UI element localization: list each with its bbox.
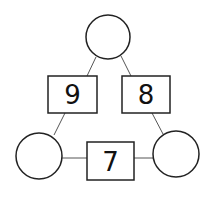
circle-top[interactable] (86, 15, 130, 59)
number-triangle-diagram: 9 8 7 (0, 0, 214, 200)
box-bottom-value: 7 (102, 147, 119, 177)
circle-bottom-right[interactable] (153, 131, 199, 177)
connector-right-box-to-bottom-right (152, 113, 163, 134)
box-right-value: 8 (138, 80, 155, 110)
connector-top-to-right-box (121, 56, 131, 76)
connector-top-to-left-box (87, 57, 96, 76)
circle-bottom-left[interactable] (16, 133, 62, 179)
box-left-value: 9 (64, 80, 81, 110)
connector-left-box-to-bottom-left (54, 113, 65, 135)
